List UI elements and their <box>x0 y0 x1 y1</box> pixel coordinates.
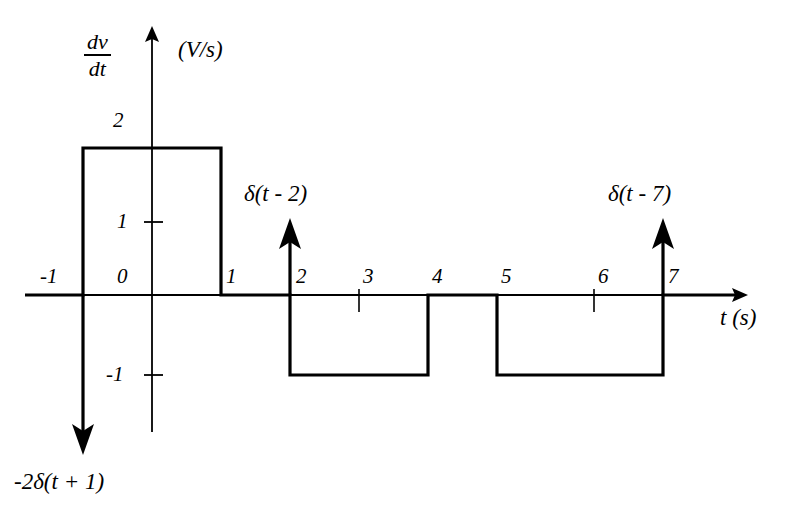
y-tick-label-neg1: -1 <box>106 364 124 385</box>
x-axis-label: t (s) <box>720 306 756 329</box>
impulse-label-t-two: δ(t - 2) <box>244 182 307 205</box>
x-tick-label-neg1: -1 <box>40 266 58 287</box>
waveform-svg <box>0 0 793 523</box>
x-tick-label-2: 2 <box>296 266 307 287</box>
x-tick-label-7: 7 <box>668 266 679 287</box>
y-axis-unit-label: (V/s) <box>178 38 223 61</box>
y-tick-label-0: 0 <box>117 266 128 287</box>
x-tick-label-4: 4 <box>432 266 443 287</box>
y-tick-label-2: 2 <box>113 110 124 131</box>
x-tick-label-3: 3 <box>363 266 374 287</box>
y-tick-label-1: 1 <box>117 211 128 232</box>
x-tick-label-1: 1 <box>226 266 237 287</box>
y-axis-label-fraction: dv dt <box>84 30 111 80</box>
x-axis-unit-label: (s) <box>732 305 756 330</box>
y-axis-label-denominator: dt <box>84 56 111 80</box>
impulse-label-neg-one: -2δ(t + 1) <box>14 470 104 493</box>
x-axis-ticks <box>359 289 594 312</box>
x-axis <box>25 288 748 302</box>
y-axis-ticks <box>144 222 163 375</box>
x-tick-label-5: 5 <box>501 266 512 287</box>
y-axis <box>145 26 159 432</box>
x-axis-label-text: t <box>720 305 726 330</box>
figure-canvas: dv dt (V/s) 2 1 0 -1 -1 1 2 3 4 5 6 7 t … <box>0 0 793 523</box>
x-tick-label-6: 6 <box>598 266 609 287</box>
impulse-label-t-seven: δ(t - 7) <box>608 182 671 205</box>
impulse-arrow-neg-one <box>72 295 94 455</box>
y-axis-label-numerator: dv <box>84 30 111 54</box>
